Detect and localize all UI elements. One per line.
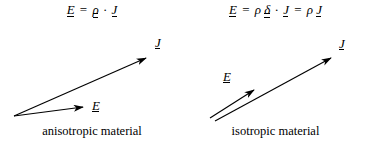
- vector-label-J-text: J: [155, 36, 161, 49]
- vector-relation-figure: E = ρ · J J E anisotropic material: [0, 0, 367, 147]
- vector-label-E-text: E: [223, 70, 231, 83]
- panel-anisotropic: E = ρ · J J E anisotropic material: [0, 0, 184, 147]
- vector-label-E-text: E: [92, 99, 100, 112]
- vector-label-E: E: [92, 99, 100, 112]
- caption-isotropic: isotropic material: [184, 124, 367, 139]
- vector-label-J-text: J: [339, 37, 345, 50]
- vector-label-J: J: [155, 36, 161, 49]
- caption-anisotropic: anisotropic material: [0, 124, 184, 139]
- vector-label-J: J: [339, 37, 345, 50]
- vector-arrow-J: [215, 58, 331, 121]
- vector-label-E: E: [223, 70, 231, 83]
- panel-isotropic: E = ρ δ · J = ρ J J E isotr: [184, 0, 367, 147]
